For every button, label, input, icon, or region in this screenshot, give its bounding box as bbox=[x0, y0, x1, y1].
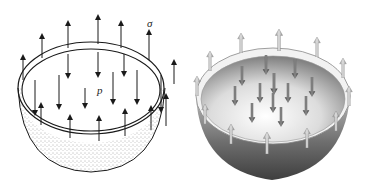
pressure-label-p: p bbox=[97, 84, 103, 96]
hemisphere-line-diagram bbox=[0, 0, 182, 192]
hemisphere-shaded-diagram bbox=[182, 0, 365, 192]
shaded-hemisphere-figure bbox=[182, 0, 365, 192]
line-drawing-hemisphere-figure: σ p bbox=[0, 0, 182, 192]
stress-label-sigma: σ bbox=[147, 17, 152, 29]
